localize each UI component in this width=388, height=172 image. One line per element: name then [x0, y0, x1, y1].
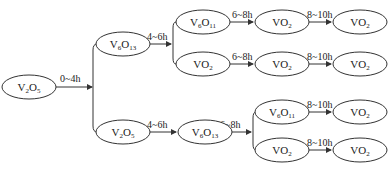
edge-label: 6~8h — [232, 9, 252, 20]
edge-label: 6~8h — [232, 51, 252, 62]
node-vo2-bottom-c: VO2 — [333, 138, 387, 162]
node-v2o5-bottom: V2O5 — [96, 120, 150, 144]
node-v6o11-bottom: V6O11 — [255, 100, 309, 124]
edge-label: 0~4h — [60, 73, 80, 84]
edge-label: 8~10h — [307, 137, 332, 148]
edge-top-split-up — [173, 22, 176, 44]
edge-label: 8~10h — [307, 51, 332, 62]
node-vo2-bottom-b: VO2 — [333, 100, 387, 124]
edge-label: 8~10h — [307, 9, 332, 20]
edge-label: 8~10h — [307, 99, 332, 110]
flow-diagram: 0~4h 4~6h 6~8h 6~8h 8~10h 8~10h 4~6h 6~8… — [0, 0, 388, 172]
node-vo2-mid-b: VO2 — [333, 52, 387, 76]
edge-label: 4~6h — [147, 31, 167, 42]
node-vo2-top-b: VO2 — [255, 10, 309, 34]
edge-top-split-down — [173, 44, 176, 64]
node-v6o11-top: V6O11 — [176, 10, 230, 34]
node-vo2-top-a: VO2 — [176, 52, 230, 76]
node-vo2-bottom-a: VO2 — [255, 138, 309, 162]
edge-junction-top — [93, 44, 97, 87]
node-v6o13-bottom: V6O13 — [178, 120, 232, 144]
edge-junction-bottom — [93, 87, 97, 132]
node-vo2-mid-a: VO2 — [255, 52, 309, 76]
edge-label: 4~6h — [147, 119, 167, 130]
node-v6o13-top: V6O13 — [96, 32, 150, 56]
node-v2o5-root: V2O5 — [2, 75, 56, 99]
node-vo2-top-c: VO2 — [333, 10, 387, 34]
